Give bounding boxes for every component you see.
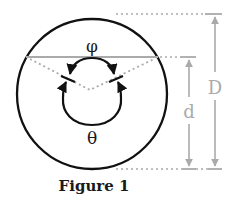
- phi-arc-left: [70, 58, 92, 74]
- figure-caption: Figure 1: [0, 177, 188, 195]
- theta-label: θ: [87, 128, 97, 148]
- phi-label: φ: [86, 36, 98, 56]
- phi-arc-right: [92, 58, 114, 74]
- angle-guide-lines: [30, 59, 154, 90]
- theta-arc-left: [63, 82, 92, 125]
- d-label: d: [183, 101, 195, 122]
- D-label: D: [208, 77, 222, 98]
- theta-arc-right: [92, 82, 121, 125]
- figure-diagram: d D φ θ: [0, 0, 236, 203]
- left-tick-mark: [61, 76, 75, 82]
